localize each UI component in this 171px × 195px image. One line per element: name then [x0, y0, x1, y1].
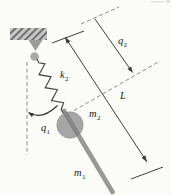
q2-arrowhead: [127, 66, 133, 73]
label-k2-sub: 2: [65, 75, 69, 83]
label-m2-base: m: [89, 108, 97, 119]
L-bottom-arrowhead: [142, 155, 148, 162]
label-L: L: [119, 90, 126, 101]
ceiling-hatch-pattern: [10, 28, 47, 40]
q2-displacement-arrow: [95, 19, 133, 73]
page-edge-artifact: [151, 0, 170, 3]
angle-q1-arc-arrow: [28, 106, 58, 118]
upper-dashed-reference-line: [81, 7, 119, 24]
label-q2-base: q: [118, 35, 123, 46]
label-q2-sub: 2: [124, 41, 128, 49]
label-L-base: L: [119, 90, 126, 101]
spring-pendulum-figure: k2 q2 L m2 q1 m1: [0, 0, 171, 195]
length-L-dimension-arrow: [52, 31, 163, 179]
label-m1: m1: [74, 167, 86, 181]
label-q2: q2: [118, 35, 128, 49]
rod-m1: [64, 111, 113, 192]
label-m1-sub: 1: [82, 173, 86, 181]
label-k2: k2: [60, 69, 69, 83]
label-m2-sub: 2: [97, 114, 101, 122]
label-q1-base: q: [41, 122, 46, 133]
L-bottom-tick: [131, 167, 163, 179]
mount-bracket-triangle: [29, 40, 43, 51]
lower-dashed-reference-line: [74, 61, 160, 111]
q1-arrowhead: [28, 112, 34, 117]
spring-k2: [37, 59, 64, 113]
label-m1-base: m: [74, 167, 82, 178]
label-q1: q1: [41, 122, 51, 136]
ceiling-mount: [10, 28, 47, 61]
diagram-canvas: k2 q2 L m2 q1 m1: [0, 0, 171, 195]
label-m2: m2: [89, 108, 101, 122]
label-q1-sub: 1: [47, 128, 51, 136]
